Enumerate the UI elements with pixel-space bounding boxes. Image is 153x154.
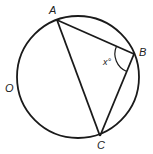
label-a: A	[48, 4, 56, 16]
label-angle-x: x°	[102, 57, 112, 67]
label-c: C	[97, 139, 105, 151]
segment-ac	[57, 20, 100, 136]
label-o: O	[5, 82, 14, 94]
label-b: B	[139, 46, 146, 58]
circle-diagram: A B C O x°	[0, 0, 153, 154]
